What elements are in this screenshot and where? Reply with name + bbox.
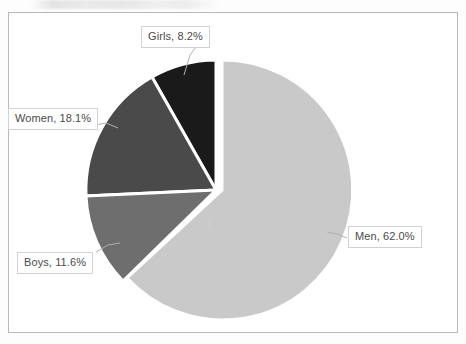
pie-chart-plot-area: Girls, 8.2% Women, 18.1% Boys, 11.6% Men… <box>0 0 466 344</box>
data-label-girls[interactable]: Girls, 8.2% <box>141 26 210 48</box>
data-label-men[interactable]: Men, 62.0% <box>348 226 422 248</box>
pie-chart-graphic <box>0 0 466 344</box>
data-label-boys[interactable]: Boys, 11.6% <box>17 252 93 274</box>
data-label-women[interactable]: Women, 18.1% <box>8 108 98 130</box>
scan-speck <box>215 222 217 226</box>
